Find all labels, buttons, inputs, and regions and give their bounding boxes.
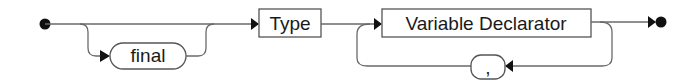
comma-label: , [485, 57, 490, 78]
final-branch-out [186, 24, 214, 56]
final-label: final [131, 45, 166, 66]
arrow-right-icon [374, 18, 382, 30]
arrow-right-icon [251, 18, 259, 30]
syntax-diagram: final Type Variable Declarator , [0, 0, 699, 84]
type-label: Type [269, 13, 310, 34]
variable-declarator-label: Variable Declarator [405, 13, 567, 34]
arrow-right-icon [100, 50, 110, 62]
arrow-right-icon [648, 16, 656, 28]
end-dot [656, 17, 667, 28]
arrow-left-icon [505, 60, 513, 72]
